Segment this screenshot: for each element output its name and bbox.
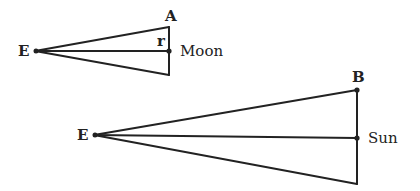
sun-top-label-b: B (352, 68, 365, 86)
sun-apex-point (93, 133, 98, 138)
sun-lower-side (94, 135, 357, 184)
moon-sun-triangles-diagram: E A r Moon E B Sun (0, 0, 420, 191)
sun-triangle: E B Sun (77, 68, 398, 184)
moon-label: Moon (180, 42, 223, 60)
sun-upper-side (94, 90, 357, 135)
sun-top-point-b (354, 87, 359, 92)
sun-label: Sun (368, 129, 398, 147)
moon-apex-point (34, 49, 39, 54)
sun-center-line (94, 135, 357, 138)
moon-center-point (166, 48, 171, 53)
moon-triangle: E A r Moon (18, 7, 223, 75)
sun-apex-label-e: E (77, 126, 88, 144)
moon-angle-label-r: r (157, 32, 166, 50)
moon-top-label-a: A (164, 7, 177, 25)
moon-apex-label-e: E (18, 42, 29, 60)
moon-upper-side (35, 27, 169, 51)
moon-lower-side (35, 51, 169, 75)
sun-center-point (354, 135, 359, 140)
